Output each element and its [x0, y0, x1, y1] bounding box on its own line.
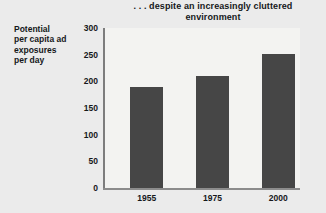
- y-axis-tick-label: 300: [55, 23, 103, 33]
- y-axis-tick-label: 250: [55, 50, 103, 60]
- x-axis-line: [103, 188, 300, 190]
- y-axis-tick-label: 150: [55, 103, 103, 113]
- bar-chart-figure: . . . despite an increasingly cluttered …: [0, 0, 326, 213]
- y-axis-tick-label: 200: [55, 76, 103, 86]
- y-axis-tick-label: 50: [55, 156, 103, 166]
- x-axis-tick-labels: 195519752000: [103, 193, 300, 209]
- x-axis-tick-label: 1975: [203, 193, 222, 203]
- chart-title-line-2: environment: [110, 12, 316, 23]
- y-axis-tick-labels: 050100150200250300: [55, 0, 103, 213]
- chart-title: . . . despite an increasingly cluttered …: [110, 1, 316, 23]
- y-axis-tick-label: 0: [55, 183, 103, 193]
- bars-layer: [103, 28, 300, 188]
- bar-1975: [196, 76, 229, 188]
- bar-2000: [262, 54, 295, 188]
- y-axis-tick-label: 100: [55, 130, 103, 140]
- chart-title-line-1: . . . despite an increasingly cluttered: [110, 1, 316, 12]
- x-axis-tick-label: 2000: [269, 193, 288, 203]
- x-axis-tick-label: 1955: [137, 193, 156, 203]
- bar-1955: [130, 87, 163, 188]
